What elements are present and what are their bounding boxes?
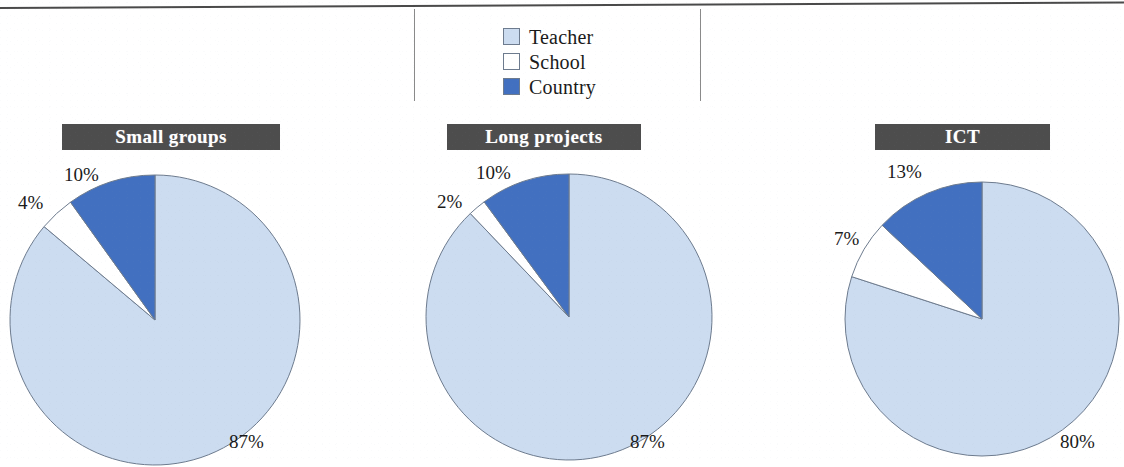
pct-label-school-ict: 7%	[834, 229, 859, 248]
pct-label-school-long-projects: 2%	[437, 192, 462, 211]
chart-title-ict: ICT	[875, 124, 1050, 150]
pct-label-country-long-projects: 10%	[476, 163, 511, 182]
pct-label-country-ict: 13%	[887, 162, 922, 181]
chart-title-small-groups: Small groups	[62, 124, 280, 150]
chart-title-long-projects: Long projects	[447, 124, 641, 150]
chart-panel-long-projects: Long projects 10% 2% 87%	[414, 0, 814, 460]
chart-panel-small-groups: Small groups 10% 4% 87%	[0, 0, 414, 460]
pct-label-teacher-small-groups: 87%	[229, 432, 264, 451]
pie-long-projects	[424, 172, 714, 462]
pct-label-teacher-ict: 80%	[1060, 432, 1095, 451]
chart-panel-ict: ICT 13% 7% 80%	[814, 0, 1124, 460]
pie-small-groups	[8, 173, 302, 467]
pct-label-teacher-long-projects: 87%	[630, 432, 665, 451]
pct-label-school-small-groups: 4%	[18, 193, 43, 212]
pie-ict	[843, 180, 1121, 458]
pct-label-country-small-groups: 10%	[64, 165, 99, 184]
